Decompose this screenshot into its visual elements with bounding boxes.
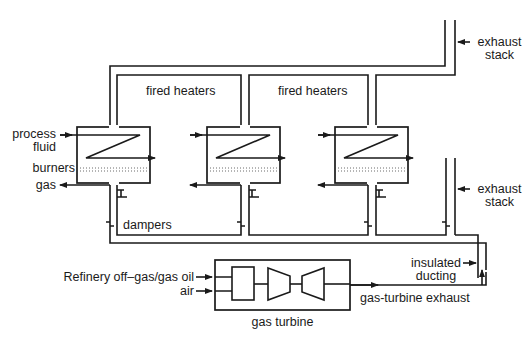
fired-heater-2 — [190, 125, 285, 185]
gas-turbine-exhaust-label: gas-turbine exhaust — [360, 292, 470, 305]
burners-label: burners — [0, 162, 75, 175]
gas-label: gas — [0, 179, 56, 192]
upper-exhaust-duct — [110, 20, 455, 127]
air-label: air — [0, 285, 194, 298]
gas-turbine — [215, 260, 350, 310]
turbine-inputs — [196, 277, 212, 291]
insulated-ducting-label: insulatedducting — [406, 257, 466, 283]
exhaust-stack-label-top: exhauststack — [472, 36, 527, 62]
gas-turbine-label: gas turbine — [215, 316, 350, 329]
dampers-label: dampers — [123, 219, 172, 232]
fired-heaters-label-1: fired heaters — [146, 85, 215, 98]
refinery-fuel-label: Refinery off–gas/gas oil — [0, 271, 194, 284]
fired-heater-3 — [318, 125, 413, 185]
process-fluid-label: processfluid — [0, 128, 56, 154]
fired-heater-1 — [60, 125, 155, 185]
exhaust-stack-label-bottom: exhauststack — [472, 183, 527, 209]
label-pointers — [458, 42, 476, 263]
fired-heaters-label-2: fired heaters — [278, 85, 347, 98]
